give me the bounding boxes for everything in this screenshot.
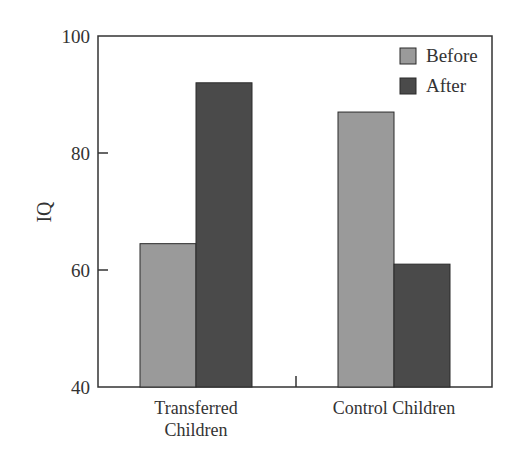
y-tick-label: 80 xyxy=(71,143,90,164)
bar-after xyxy=(196,83,252,387)
legend-swatch-before xyxy=(400,48,416,64)
legend-label-after: After xyxy=(426,75,467,96)
y-tick-label: 40 xyxy=(71,377,90,398)
legend-swatch-after xyxy=(400,78,416,94)
bar-chart: 406080100 TransferredChildrenControl Chi… xyxy=(0,0,518,456)
y-axis-title: IQ xyxy=(33,201,55,223)
bar-before xyxy=(140,244,196,387)
bar-before xyxy=(338,112,394,387)
x-category-label: Transferred xyxy=(154,398,237,418)
bar-after xyxy=(394,264,450,387)
x-category-label: Control Children xyxy=(333,398,456,418)
x-category-label: Children xyxy=(165,420,228,440)
y-tick-label: 60 xyxy=(71,260,90,281)
legend-label-before: Before xyxy=(426,45,478,66)
y-tick-label: 100 xyxy=(62,26,91,47)
